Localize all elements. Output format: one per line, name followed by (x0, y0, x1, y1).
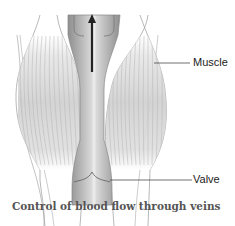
figure-caption: Control of blood flow through veins (12, 200, 220, 212)
valve-label: Valve (193, 173, 220, 185)
vein-diagram (0, 0, 235, 226)
muscle-label: Muscle (193, 56, 228, 68)
right-muscle (106, 15, 168, 226)
